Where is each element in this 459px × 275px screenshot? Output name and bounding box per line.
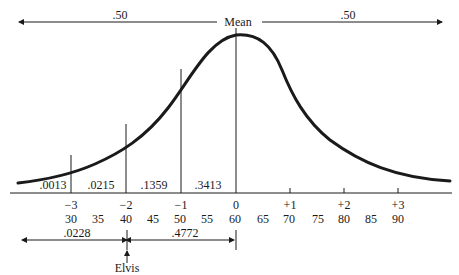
area-label-0228: .0228	[64, 227, 91, 239]
raw-label-45: 45	[147, 213, 159, 225]
area-label-0013: .0013	[40, 179, 67, 191]
left-half-label: .50	[113, 9, 128, 21]
mean-label: Mean	[222, 16, 253, 28]
z-label-minus3: −3	[65, 199, 78, 211]
raw-label-70: 70	[283, 213, 295, 225]
normal-curve	[18, 35, 450, 183]
elvis-label: Elvis	[115, 262, 140, 274]
raw-label-75: 75	[312, 213, 324, 225]
z-label-0: 0	[233, 199, 239, 211]
z-label-plus3: +3	[392, 199, 405, 211]
area-label-4772: .4772	[172, 227, 199, 239]
area-label-1359: .1359	[141, 179, 168, 191]
raw-label-35: 35	[92, 213, 104, 225]
raw-label-65: 65	[257, 213, 269, 225]
z-label-minus2: −2	[120, 199, 133, 211]
raw-label-90: 90	[392, 213, 404, 225]
raw-label-40: 40	[120, 213, 132, 225]
raw-label-55: 55	[201, 213, 213, 225]
z-label-plus1: +1	[284, 199, 297, 211]
raw-label-50: 50	[174, 213, 186, 225]
raw-label-80: 80	[338, 213, 350, 225]
area-label-0215: .0215	[88, 179, 115, 191]
raw-label-60: 60	[229, 213, 241, 225]
z-label-minus1: −1	[175, 199, 188, 211]
z-label-plus2: +2	[338, 199, 351, 211]
raw-label-30: 30	[65, 213, 77, 225]
normal-curve-diagram: .50 Mean .50 .0013 .0215 .1359 .3413 −3 …	[0, 0, 459, 275]
right-half-label: .50	[341, 9, 356, 21]
raw-label-85: 85	[365, 213, 377, 225]
area-label-3413: .3413	[195, 179, 222, 191]
